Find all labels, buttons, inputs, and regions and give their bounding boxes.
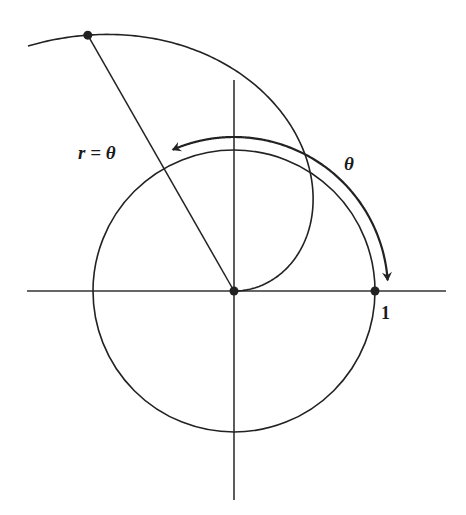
spiral-point xyxy=(83,31,92,40)
unit-point xyxy=(371,287,380,296)
origin-point xyxy=(230,287,239,296)
unit-tick-label: 1 xyxy=(381,303,390,324)
angle-label: θ xyxy=(344,153,354,175)
spiral-equation-label: r = θ xyxy=(78,142,116,164)
diagram-canvas: r = θ θ 1 xyxy=(0,0,466,515)
polar-figure xyxy=(0,0,466,515)
theta-arrow-arc xyxy=(245,137,388,280)
spiral-curve xyxy=(28,34,313,291)
